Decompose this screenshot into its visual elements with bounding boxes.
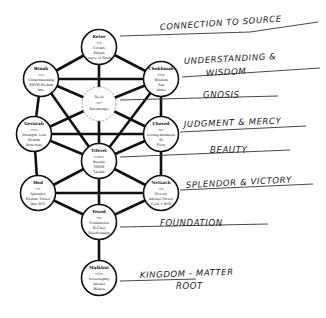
svg-text:Adonai Tzvaot: Adonai Tzvaot	[148, 197, 174, 201]
svg-text:Knowledge: Knowledge	[89, 107, 108, 111]
svg-text:יסוד: יסוד	[96, 216, 101, 220]
svg-text:Chesed: Chesed	[153, 121, 170, 126]
svg-text:Hod: Hod	[33, 180, 43, 185]
svg-text:בינה: בינה	[38, 73, 44, 77]
svg-text:נצח: נצח	[159, 187, 164, 191]
annotations: Connection to Source Understanding & Wis…	[140, 13, 293, 291]
annotation-connection-to-source: Connection to Source	[159, 13, 282, 32]
svg-text:Crown: Crown	[93, 46, 105, 50]
sefira-yesod: Yesod יסוד Foundation El Chai Relationsh…	[82, 205, 117, 240]
svg-text:Sovereignty: Sovereignty	[89, 277, 110, 281]
svg-text:הוד: הוד	[36, 187, 40, 191]
svg-text:Splendor: Splendor	[30, 192, 46, 196]
svg-text:Yesod: Yesod	[91, 209, 105, 214]
svg-text:חסד: חסד	[158, 128, 164, 132]
svg-text:El: El	[159, 138, 163, 142]
sefira-binah: Binah בינה Understanding YHVH Elohim Imo	[24, 62, 59, 97]
svg-text:Malkhut: Malkhut	[89, 265, 109, 270]
svg-text:Relationship: Relationship	[88, 231, 110, 235]
sefira-chesed: Chesed חסד Loving-kindness El Flow	[144, 117, 179, 152]
svg-text:Netzach: Netzach	[151, 180, 170, 185]
svg-text:Elohim Tzvaot: Elohim Tzvaot	[26, 197, 51, 201]
svg-text:YHVH Elohim: YHVH Elohim	[28, 83, 54, 87]
svg-text:Victory: Victory	[154, 192, 167, 196]
svg-text:Foundation: Foundation	[89, 221, 109, 225]
svg-text:Strength, Law: Strength, Law	[22, 133, 47, 137]
svg-text:Da'at: Da'at	[94, 95, 104, 99]
svg-text:Makes: Makes	[93, 287, 105, 291]
annotation-kingdom-matter: Kingdom - Matter	[140, 267, 234, 280]
svg-text:YHVH: YHVH	[93, 165, 105, 169]
svg-text:El Chai: El Chai	[93, 226, 106, 230]
svg-text:Structure: Structure	[26, 143, 43, 147]
annotation-root: Root	[176, 281, 203, 291]
svg-text:Tzadik: Tzadik	[93, 170, 105, 174]
annotation-understanding: Understanding &	[184, 51, 277, 66]
svg-text:Understanding: Understanding	[28, 78, 55, 82]
sefira-hod: Hod הוד Splendor Elohim Tzvaot Imo W/G	[21, 176, 56, 211]
svg-text:Ehyeh: Ehyeh	[94, 51, 106, 55]
sefira-netzach: Netzach נצח Victory Adonai Tzvaot Gold +…	[144, 176, 179, 211]
svg-text:Chokhmah: Chokhmah	[148, 66, 173, 71]
sefira-malkhut: Malkhut מלכות Sovereignty Adonai Makes	[82, 261, 117, 296]
svg-text:Wisdom: Wisdom	[154, 78, 168, 82]
svg-text:חכמה: חכמה	[157, 73, 165, 77]
sefira-tiferet: Tiferet תפארת Beauty YHVH Tzadik	[82, 144, 117, 179]
svg-text:תפארת: תפארת	[94, 155, 104, 159]
annotation-foundation: Foundation	[160, 218, 223, 228]
svg-text:Adonai: Adonai	[92, 282, 105, 286]
svg-text:Beauty: Beauty	[93, 160, 105, 164]
svg-text:Abba: Abba	[156, 88, 166, 92]
svg-text:Loving-kindness: Loving-kindness	[147, 133, 175, 137]
svg-text:Tiferet: Tiferet	[91, 148, 107, 153]
annotation-gnosis: Gnosis	[203, 90, 240, 100]
svg-text:Elohim: Elohim	[28, 138, 41, 142]
tree-of-life-diagram: Keter כתר Crown Ehyeh Source of Desire B…	[0, 0, 326, 318]
svg-text:Yah: Yah	[157, 83, 165, 87]
svg-text:Flow: Flow	[157, 143, 165, 147]
sefira-keter: Keter כתר Crown Ehyeh Source of Desire	[82, 30, 117, 65]
svg-text:Binah: Binah	[34, 66, 48, 71]
sefira-chokhmah: Chokhmah חכמה Wisdom Yah Abba	[144, 62, 179, 97]
svg-text:Gevurah: Gevurah	[24, 121, 44, 126]
node-name: Keter	[92, 34, 106, 39]
svg-text:Imo: Imo	[38, 88, 45, 92]
svg-text:Source of Desire: Source of Desire	[85, 56, 114, 60]
svg-text:Gold + W/D: Gold + W/D	[151, 202, 172, 206]
svg-text:כתר: כתר	[96, 41, 102, 45]
svg-text:דעת: דעת	[96, 101, 102, 105]
sefira-gevurah: Gevurah גבורה Strength, Law Elohim Struc…	[17, 117, 52, 152]
svg-text:מלכות: מלכות	[95, 272, 103, 276]
sefira-daat: Da'at דעת Knowledge	[82, 87, 116, 121]
annotation-beauty: Beauty	[210, 145, 247, 155]
svg-text:Imo W/G: Imo W/G	[30, 202, 45, 206]
svg-text:גבורה: גבורה	[30, 128, 38, 132]
annotation-judgment-mercy: Judgment & Mercy	[182, 116, 282, 129]
annotation-wisdom: Wisdom	[206, 66, 247, 78]
